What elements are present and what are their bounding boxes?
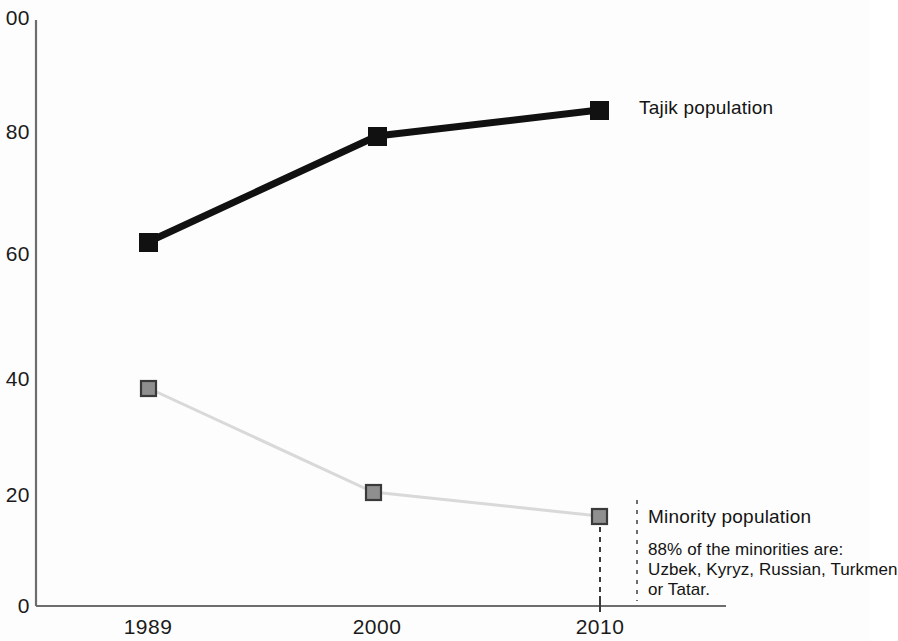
minority-note-line-1: 88% of the minorities are:	[648, 540, 898, 560]
y-tick-label-100: 00	[0, 6, 30, 30]
tajik-marker-2000	[369, 128, 386, 145]
y-tick-label-20: 20	[0, 483, 30, 507]
x-tick-label-2010: 2010	[550, 615, 650, 639]
x-tick-label-2000: 2000	[327, 615, 427, 639]
minority-population-series-label: Minority population	[648, 506, 811, 528]
y-tick-label-60: 60	[0, 242, 30, 266]
tajik-population-series-label: Tajik population	[639, 97, 773, 119]
y-tick-label-80: 80	[0, 120, 30, 144]
minority-marker-2000	[366, 485, 381, 500]
x-tick-label-1989: 1989	[98, 615, 198, 639]
y-tick-label-40: 40	[0, 367, 30, 391]
minority-note-line-2: Uzbek, Kyryz, Russian, Turkmen	[648, 560, 898, 580]
tajik-marker-1989	[140, 234, 157, 251]
minority-breakdown-note: 88% of the minorities are: Uzbek, Kyryz,…	[648, 540, 898, 600]
y-tick-label-0: 0	[0, 594, 30, 618]
tajik-marker-2010	[591, 102, 608, 119]
minority-marker-2010	[592, 509, 607, 524]
minority-note-line-3: or Tatar.	[648, 580, 898, 600]
minority-marker-1989	[141, 381, 156, 396]
